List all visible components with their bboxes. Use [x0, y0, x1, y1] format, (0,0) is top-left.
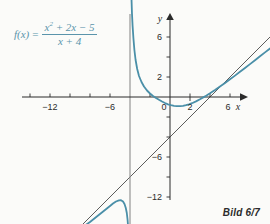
y-tick-label-neg12: −12: [147, 192, 162, 202]
formula-numerator: x2 + 2x − 5: [42, 22, 96, 35]
y-tick-label-6: 6: [157, 32, 162, 42]
formula-equals: =: [32, 29, 38, 40]
x-tick-label-neg6: −6: [105, 102, 115, 112]
y-axis-arrow: [166, 13, 174, 20]
function-formula: f(x) = x2 + 2x − 5 x + 4: [14, 22, 97, 47]
x-tick-label-0: 0: [161, 102, 166, 112]
x-tick-label-neg12: −12: [42, 102, 57, 112]
figure-caption: Bild 6/7: [223, 207, 260, 218]
x-axis-label: x: [235, 101, 241, 112]
y-axis-ticks: [167, 37, 171, 197]
formula-fraction: x2 + 2x − 5 x + 4: [42, 22, 96, 47]
x-tick-label-6: 6: [225, 102, 230, 112]
y-axis-label: y: [157, 13, 163, 24]
y-tick-label-neg6: −6: [152, 152, 162, 162]
formula-numerator-rest: + 2x − 5: [53, 21, 95, 33]
curve-left-branch: [0, 200, 129, 224]
x-tick-label-2: 2: [187, 102, 192, 112]
figure-container: −12 −6 0 2 6 6 2 −6 −12 x y f(x) = x2 + …: [0, 0, 270, 224]
slant-asymptote: [0, 37, 270, 224]
y-tick-label-2: 2: [157, 72, 162, 82]
formula-lhs: f(x): [14, 29, 29, 40]
x-axis-arrow: [240, 93, 248, 101]
formula-denominator: x + 4: [56, 35, 83, 47]
curve-right-branch: [131, 0, 270, 106]
